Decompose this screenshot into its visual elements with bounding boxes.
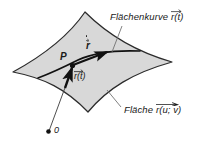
label-tangent-vector-symbol: r [86, 41, 90, 51]
figure-container: Flächenkurve r(t) Fläche r(u; v) P [0, 0, 208, 146]
origin-marker [46, 129, 51, 134]
vector-symbol-r-of-t: r(t) [171, 12, 184, 22]
label-surface-arg: (u; v) [159, 104, 181, 115]
vector-symbol-position-r-of-t: r(t) [74, 72, 86, 81]
label-surface-curve-arg: (t) [174, 11, 183, 22]
label-position-vector-arg: (t) [77, 71, 86, 81]
label-surface: Fläche r(u; v) [124, 105, 181, 115]
label-point-p: P [60, 52, 67, 62]
label-surface-curve-text: Flächenkurve [110, 11, 168, 22]
point-p-marker [70, 63, 75, 68]
label-surface-text: Fläche [124, 104, 153, 115]
vector-symbol-r-dot: r [86, 41, 90, 51]
vector-symbol-r-of-u-v: r(u; v) [156, 105, 182, 115]
label-origin: 0 [54, 126, 59, 135]
leader-line-surface [107, 90, 121, 107]
label-position-vector: r(t) [74, 72, 86, 81]
label-tangent-vector: r [86, 41, 90, 51]
surface-patch [13, 12, 172, 112]
label-surface-curve: Flächenkurve r(t) [110, 12, 184, 22]
